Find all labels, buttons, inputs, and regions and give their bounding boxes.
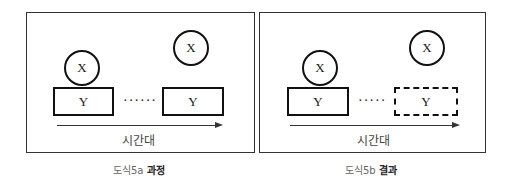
ellipsis-dots: ······ — [123, 94, 157, 108]
time-axis-line — [290, 125, 454, 126]
rect-y-left: Y — [287, 87, 349, 116]
ellipsis-dots: ····· — [358, 94, 386, 108]
caption-process: 도식5a과정 — [113, 162, 165, 177]
caption-result: 도식5b결과 — [345, 162, 397, 177]
circle-x-right: X — [173, 30, 209, 66]
rect-y-right-label: Y — [421, 94, 430, 110]
caption-title: 과정 — [147, 165, 165, 176]
diagram-panel-result: X X Y ····· Y 시간대 — [259, 12, 486, 153]
rect-y-left: Y — [53, 87, 114, 116]
diagram-panel-process: X X Y ······ Y 시간대 — [26, 12, 255, 153]
arrow-right-icon — [452, 122, 460, 128]
circle-x-left: X — [302, 50, 338, 86]
caption-title: 결과 — [379, 165, 397, 176]
circle-x-left-label: X — [315, 60, 324, 76]
arrow-right-icon — [215, 122, 223, 128]
rect-y-right: Y — [162, 87, 224, 116]
time-axis-label: 시간대 — [122, 131, 155, 148]
time-axis-label: 시간대 — [357, 131, 390, 148]
time-axis-line — [57, 125, 217, 126]
circle-x-right-label: X — [186, 40, 195, 56]
rect-y-right-dashed: Y — [394, 87, 458, 116]
circle-x-left-label: X — [77, 60, 86, 76]
rect-y-right-label: Y — [188, 94, 197, 110]
caption-prefix: 도식5a — [113, 165, 144, 176]
caption-prefix: 도식5b — [345, 165, 376, 176]
rect-y-left-label: Y — [79, 94, 88, 110]
circle-x-left: X — [64, 50, 100, 86]
circle-x-right-label: X — [422, 40, 431, 56]
circle-x-right: X — [409, 30, 445, 66]
rect-y-left-label: Y — [313, 94, 322, 110]
